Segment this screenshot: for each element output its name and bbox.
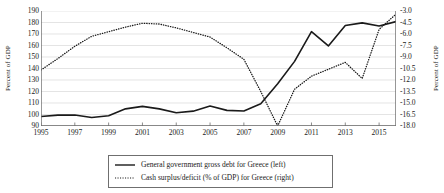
x-axis-tick-label: 1997: [67, 128, 82, 138]
y-axis-right-tick-label: -18.0: [400, 122, 416, 130]
y-axis-right-ticks: -3.0-4.5-6.0-7.5-9.0-10.5-12.0-13.5-15.0…: [398, 0, 428, 140]
legend-dotted-line-icon: [114, 173, 136, 183]
x-axis-tick-label: 2007: [236, 128, 251, 138]
y-axis-right-tick-label: -16.5: [400, 111, 416, 119]
y-axis-left-tick-label: 120: [28, 88, 39, 96]
x-axis-tick-label: 2013: [338, 128, 353, 138]
y-axis-right-tick-label: -7.5: [400, 42, 412, 50]
x-axis-tick-label: 1999: [101, 128, 116, 138]
legend-solid-line-icon: [114, 160, 136, 170]
y-axis-left-tick-label: 170: [28, 30, 39, 38]
y-axis-left-tick-label: 180: [28, 19, 39, 27]
y-axis-right-tick-label: -12.0: [400, 76, 416, 84]
y-axis-right-tick-label: -3.0: [400, 7, 412, 15]
y-axis-left-tick-label: 110: [28, 99, 39, 107]
y-axis-left-tick-label: 190: [28, 7, 39, 15]
y-axis-right-title: Percent of GDP: [432, 32, 440, 104]
y-axis-left-tick-label: 130: [28, 76, 39, 84]
y-axis-right-tick-label: -6.0: [400, 30, 412, 38]
legend-label-debt: General government gross debt for Greece…: [141, 160, 286, 170]
x-axis-tick-label: 2001: [135, 128, 150, 138]
x-axis-tick-label: 2015: [372, 128, 387, 138]
chart-svg: [41, 11, 396, 126]
chart-container: Percent of GDP Percent of GDP 1901801701…: [0, 0, 444, 193]
y-axis-left-tick-label: 160: [28, 42, 39, 50]
x-axis-ticks: 1995199719992001200320052007200920112013…: [41, 128, 396, 142]
chart-legend: General government gross debt for Greece…: [108, 155, 333, 188]
x-axis-tick-label: 1995: [34, 128, 49, 138]
y-axis-left-tick-label: 140: [28, 65, 39, 73]
x-axis-tick-label: 2011: [304, 128, 319, 138]
y-axis-left-ticks: 19018017016015014013012011010090: [11, 0, 41, 140]
legend-item-debt: General government gross debt for Greece…: [114, 158, 327, 171]
y-axis-left-tick-label: 100: [28, 111, 39, 119]
legend-label-deficit: Cash surplus/deficit (% of GDP) for Gree…: [141, 173, 294, 183]
y-axis-right-tick-label: -9.0: [400, 53, 412, 61]
y-axis-right-tick-label: -4.5: [400, 19, 412, 27]
y-axis-right-tick-label: -13.5: [400, 88, 416, 96]
y-axis-right-tick-label: -10.5: [400, 65, 416, 73]
y-axis-right-tick-label: -15.0: [400, 99, 416, 107]
plot-area: [41, 11, 396, 126]
x-axis-tick-label: 2003: [169, 128, 184, 138]
y-axis-left-tick-label: 150: [28, 53, 39, 61]
legend-item-deficit: Cash surplus/deficit (% of GDP) for Gree…: [114, 171, 327, 184]
x-axis-tick-label: 2009: [270, 128, 285, 138]
x-axis-tick-label: 2005: [203, 128, 218, 138]
